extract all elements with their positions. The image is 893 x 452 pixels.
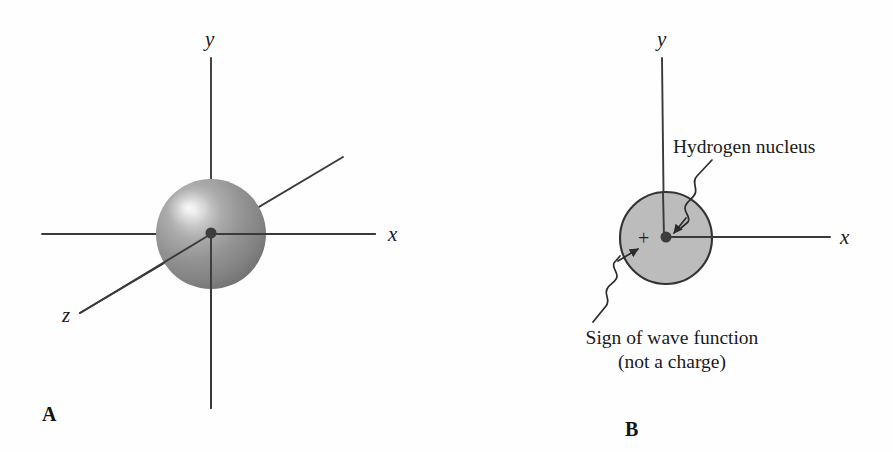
panel-a: x y z A (42, 27, 398, 425)
figure-canvas: x y z A + Hydrogen nucleus (0, 0, 893, 452)
sign-of-wave-function-label-line1: Sign of wave function (586, 327, 759, 348)
panel-b-sign-symbol: + (638, 227, 649, 249)
orbital-figure: x y z A + Hydrogen nucleus (0, 0, 893, 452)
panel-a-sphere-highlight (167, 190, 211, 226)
sign-of-wave-function-label-line2: (not a charge) (618, 351, 726, 373)
panel-b-axis-label-x: x (839, 225, 850, 249)
panel-b-axis-y-front (663, 192, 664, 237)
panel-b-axis-label-y: y (655, 27, 667, 51)
panel-a-axis-label-z: z (61, 303, 70, 327)
hydrogen-nucleus-label: Hydrogen nucleus (673, 136, 815, 157)
panel-b-nucleus-dot (661, 232, 672, 243)
panel-a-nucleus-dot (206, 228, 217, 239)
panel-a-label: A (42, 403, 57, 425)
panel-b: + Hydrogen nucleus Sign of wave function… (586, 27, 850, 440)
panel-b-label: B (625, 418, 638, 440)
panel-a-axis-label-x: x (387, 222, 398, 246)
sign-of-wave-function-leader-line (593, 256, 620, 322)
panel-a-axis-label-y: y (203, 27, 215, 51)
